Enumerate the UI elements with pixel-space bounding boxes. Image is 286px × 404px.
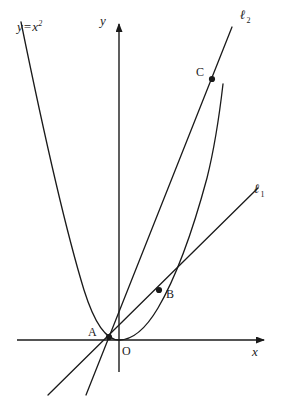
point-marker-B [156, 287, 162, 293]
point-marker-A [106, 334, 112, 340]
parabola-curve [21, 22, 223, 340]
figure-root: y=x2 y x O A B C ℓ2 ℓ1 [0, 0, 286, 404]
diagram-canvas [0, 0, 286, 404]
point-marker-C [209, 76, 215, 82]
line-l1 [48, 188, 258, 395]
